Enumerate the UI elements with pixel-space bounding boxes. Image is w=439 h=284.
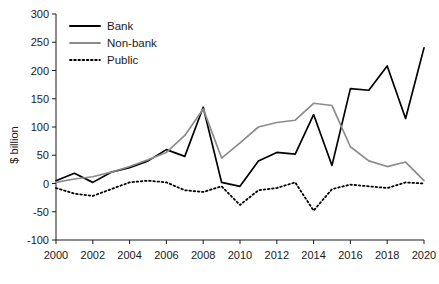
legend-label-non-bank: Non-bank: [107, 37, 157, 49]
y-tick-label: -100: [27, 234, 49, 246]
x-tick-label: 2000: [44, 249, 68, 261]
chart-container: -100-50050100150200250300 20002002200420…: [0, 0, 439, 284]
line-chart: -100-50050100150200250300 20002002200420…: [0, 0, 439, 284]
legend-label-public: Public: [107, 54, 139, 66]
chart-legend: BankNon-bankPublic: [70, 20, 157, 66]
data-series-group: [56, 48, 424, 211]
y-tick-label: 200: [31, 65, 49, 77]
x-tick-label: 2016: [338, 249, 362, 261]
x-tick-label: 2002: [81, 249, 105, 261]
series-line-bank: [56, 48, 424, 186]
x-axis: 2000200220042006200820102012201420162018…: [44, 240, 436, 261]
x-tick-label: 2020: [412, 249, 436, 261]
legend-label-bank: Bank: [107, 20, 133, 32]
y-tick-label: 100: [31, 121, 49, 133]
y-tick-label: 0: [43, 178, 49, 190]
y-tick-label: 50: [37, 149, 49, 161]
y-tick-label: 300: [31, 8, 49, 20]
series-line-non-bank: [56, 103, 424, 182]
x-tick-label: 2014: [301, 249, 325, 261]
y-tick-label: -50: [33, 206, 49, 218]
y-tick-label: 250: [31, 36, 49, 48]
y-tick-label: 150: [31, 93, 49, 105]
x-tick-label: 2010: [228, 249, 252, 261]
y-axis-title: $ billion: [8, 126, 20, 163]
x-tick-label: 2012: [265, 249, 289, 261]
x-tick-label: 2004: [117, 249, 141, 261]
x-tick-label: 2018: [375, 249, 399, 261]
x-tick-label: 2008: [191, 249, 215, 261]
y-axis: -100-50050100150200250300: [27, 8, 56, 246]
x-tick-label: 2006: [154, 249, 178, 261]
